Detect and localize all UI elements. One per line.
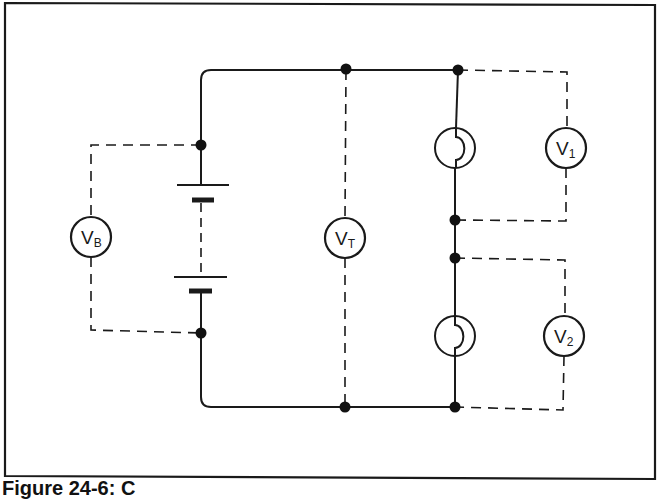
junction-lamp2-top	[450, 253, 461, 264]
voltmeter-v1: V1	[546, 128, 586, 168]
lamp-2	[435, 316, 475, 356]
junction-lamp2-bottom	[450, 402, 461, 413]
junction-battery-bottom	[196, 328, 207, 339]
voltmeter-vt: VT	[325, 218, 365, 258]
battery	[174, 185, 229, 291]
junction-vt-top	[341, 64, 352, 75]
junction-vt-bottom	[340, 402, 351, 413]
junction-lamp1-top	[453, 65, 464, 76]
figure-caption: Figure 24-6: C	[2, 478, 135, 498]
voltmeter-v2: V2	[544, 316, 584, 356]
junction-battery-top	[196, 140, 207, 151]
junction-lamp1-bottom	[450, 215, 461, 226]
voltmeter-vb: VB	[71, 217, 111, 257]
lamp-1	[435, 128, 475, 168]
